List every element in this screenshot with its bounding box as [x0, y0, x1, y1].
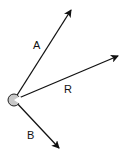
vector-a-line	[14, 10, 71, 100]
vector-r-label: R	[64, 83, 72, 95]
vector-b-label: B	[27, 129, 34, 141]
vector-a-label: A	[33, 39, 41, 51]
vector-diagram: A R B	[0, 0, 124, 158]
origin-pivot-icon	[8, 94, 22, 106]
vector-b-line	[14, 100, 59, 148]
vector-diagram-svg: A R B	[0, 0, 124, 158]
